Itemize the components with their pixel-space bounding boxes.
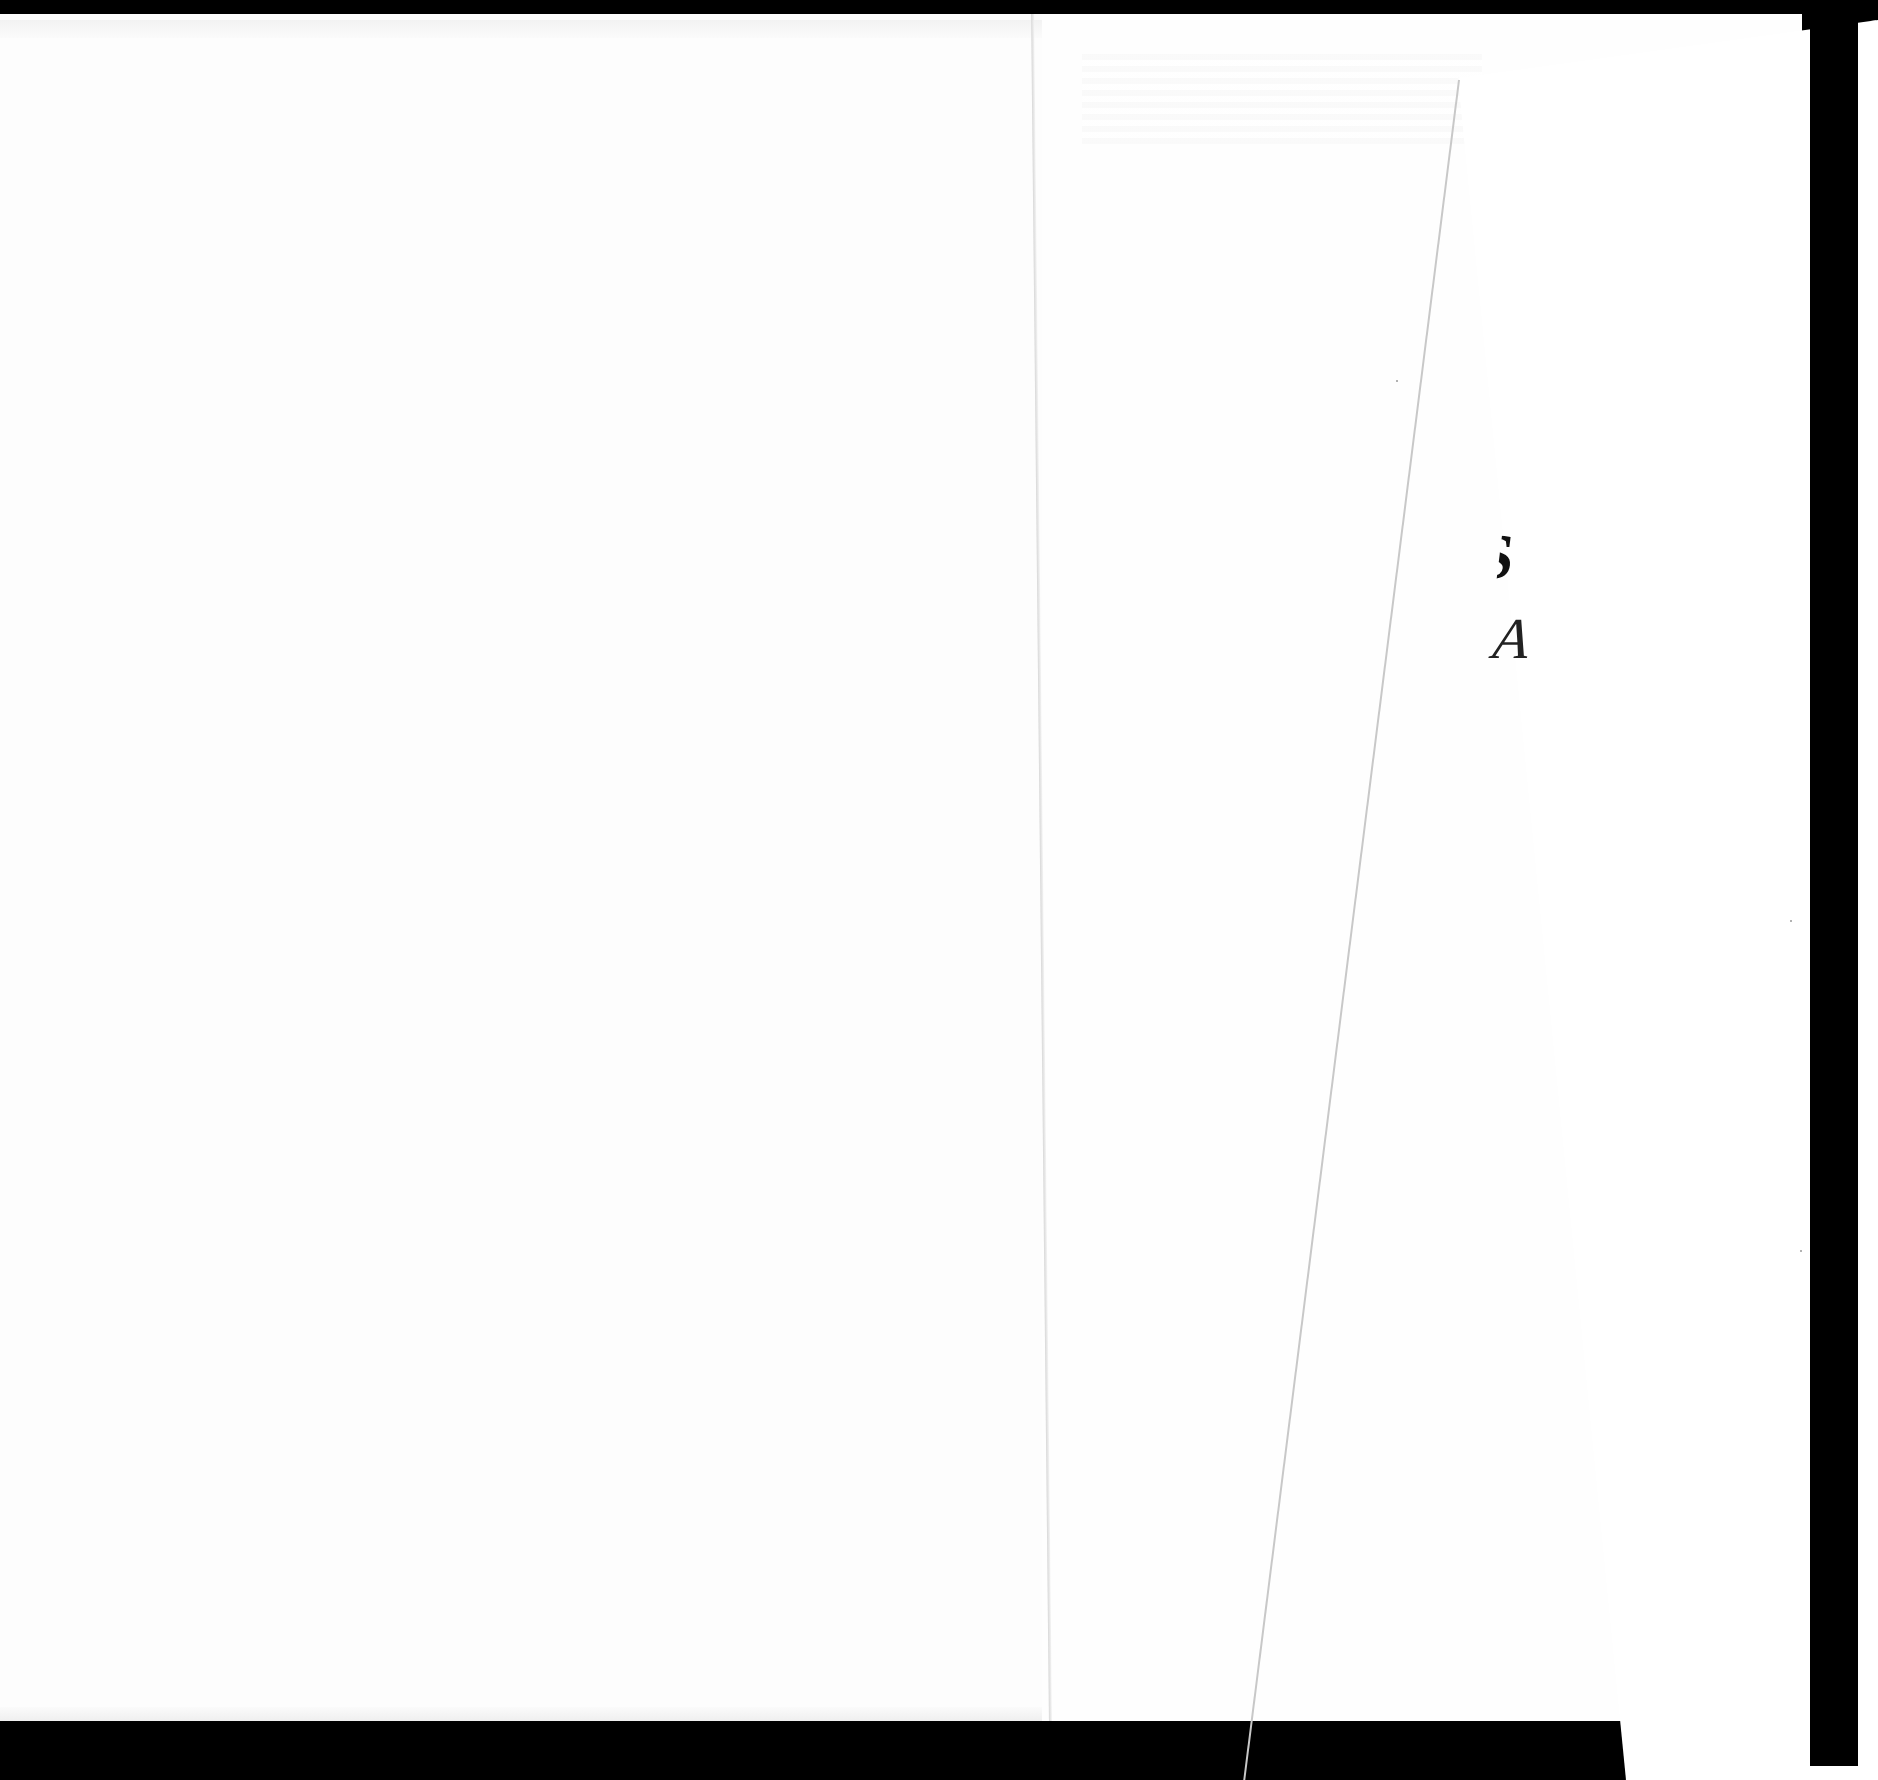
show-through-text-block <box>1082 54 1482 144</box>
show-through-text-top <box>0 20 1042 38</box>
dust-speck <box>1790 920 1792 922</box>
show-through-text-bottom <box>0 1707 1042 1721</box>
left-page <box>0 14 1042 1721</box>
scanner-edge-right <box>1810 0 1858 1766</box>
dust-speck <box>1396 380 1398 382</box>
dust-speck <box>1800 1250 1802 1252</box>
